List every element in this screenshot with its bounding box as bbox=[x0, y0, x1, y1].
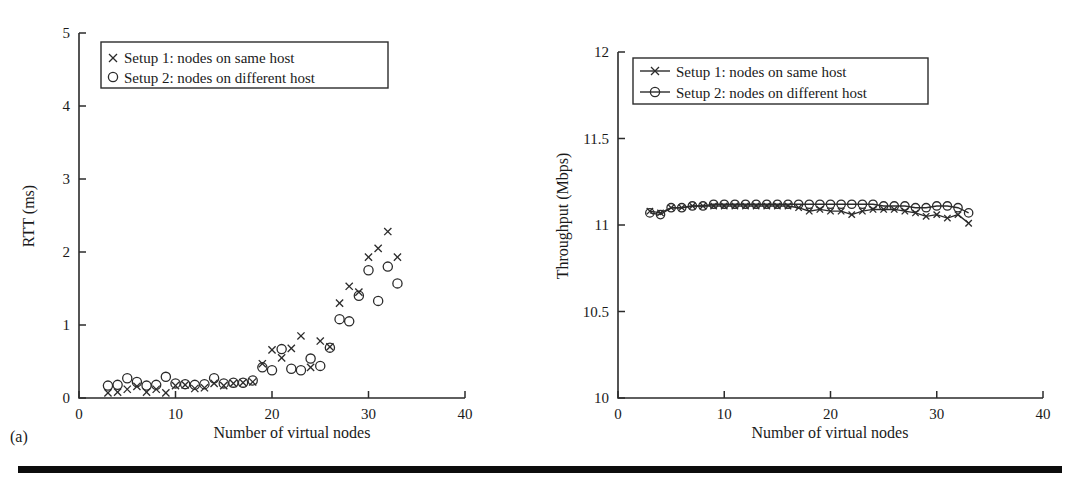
rtt-chart-svg: 010203040 012345 Number of virtual nodes… bbox=[0, 0, 540, 482]
x-tick-label: 0 bbox=[75, 406, 83, 422]
marker-circle bbox=[393, 279, 402, 288]
x-tick-label: 30 bbox=[929, 406, 944, 422]
marker-x bbox=[965, 220, 971, 226]
y-tick-label: 0 bbox=[63, 390, 71, 406]
x-tick-label: 0 bbox=[614, 406, 622, 422]
x-tick-label: 40 bbox=[458, 406, 473, 422]
throughput-y-axis-title: Throughput (Mbps) bbox=[554, 153, 572, 280]
series-polyline bbox=[650, 204, 969, 214]
x-tick-label: 30 bbox=[361, 406, 376, 422]
marker-circle bbox=[142, 381, 151, 390]
y-tick-label: 5 bbox=[63, 25, 71, 41]
rtt-legend: Setup 1: nodes on same host Setup 2: nod… bbox=[101, 42, 388, 88]
chart-panel-throughput: 010203040 1010.51111.512 Number of virtu… bbox=[540, 0, 1080, 482]
y-tick-label: 11.5 bbox=[583, 131, 609, 147]
marker-circle bbox=[248, 376, 257, 385]
marker-circle bbox=[132, 377, 141, 386]
series-setup1 bbox=[104, 228, 401, 397]
y-tick-label: 2 bbox=[63, 244, 71, 260]
marker-x bbox=[239, 379, 246, 386]
marker-x bbox=[124, 386, 131, 393]
y-tick-label: 11 bbox=[595, 217, 609, 233]
marker-x bbox=[394, 254, 401, 261]
rtt-y-tick-labels: 012345 bbox=[63, 25, 71, 406]
figure-bottom-rule bbox=[18, 466, 1062, 473]
y-tick-label: 3 bbox=[63, 171, 71, 187]
marker-circle bbox=[123, 374, 132, 383]
throughput-legend-label-setup2: Setup 2: nodes on different host bbox=[676, 85, 868, 101]
marker-circle bbox=[267, 366, 276, 375]
throughput-data-series bbox=[646, 200, 973, 226]
throughput-legend-label-setup1: Setup 1: nodes on same host bbox=[676, 64, 847, 80]
series-setup2 bbox=[103, 262, 402, 390]
marker-x bbox=[346, 283, 353, 290]
marker-circle bbox=[161, 372, 170, 381]
marker-circle bbox=[219, 379, 228, 388]
rtt-x-tick-labels: 010203040 bbox=[75, 406, 472, 422]
y-tick-label: 4 bbox=[63, 98, 71, 114]
marker-circle bbox=[306, 354, 315, 363]
rtt-legend-label-setup2: Setup 2: nodes on different host bbox=[124, 70, 316, 86]
marker-x bbox=[384, 228, 391, 235]
panel-a-tag: (a) bbox=[10, 428, 28, 446]
marker-x bbox=[268, 346, 275, 353]
marker-circle bbox=[152, 380, 161, 389]
marker-x bbox=[365, 254, 372, 261]
rtt-legend-label-setup1: Setup 1: nodes on same host bbox=[124, 50, 295, 66]
marker-circle bbox=[287, 364, 296, 373]
throughput-legend: Setup 1: nodes on same host Setup 2: nod… bbox=[633, 58, 928, 104]
marker-circle bbox=[374, 296, 383, 305]
figure-root: 010203040 012345 Number of virtual nodes… bbox=[0, 0, 1080, 482]
marker-circle bbox=[335, 315, 344, 324]
rtt-y-axis-title: RTT (ms) bbox=[20, 185, 38, 247]
marker-circle bbox=[345, 317, 354, 326]
marker-x bbox=[375, 245, 382, 252]
throughput-x-axis-title: Number of virtual nodes bbox=[752, 424, 909, 441]
marker-circle bbox=[383, 262, 392, 271]
marker-circle bbox=[364, 266, 373, 275]
chart-panel-rtt: 010203040 012345 Number of virtual nodes… bbox=[0, 0, 540, 482]
throughput-y-tick-labels: 1010.51111.512 bbox=[583, 44, 609, 406]
rtt-x-axis-title: Number of virtual nodes bbox=[214, 424, 371, 441]
marker-circle bbox=[103, 381, 112, 390]
marker-x bbox=[317, 337, 324, 344]
marker-circle bbox=[171, 379, 180, 388]
marker-circle bbox=[316, 361, 325, 370]
marker-circle bbox=[113, 380, 122, 389]
marker-x bbox=[336, 300, 343, 307]
y-tick-label: 10.5 bbox=[583, 304, 609, 320]
marker-x bbox=[278, 354, 285, 361]
y-tick-label: 1 bbox=[63, 317, 71, 333]
x-tick-label: 10 bbox=[717, 406, 732, 422]
rtt-data-points bbox=[103, 228, 402, 397]
x-tick-label: 20 bbox=[823, 406, 838, 422]
marker-circle bbox=[277, 344, 286, 353]
marker-x bbox=[307, 364, 314, 371]
y-tick-label: 12 bbox=[594, 44, 609, 60]
marker-circle bbox=[296, 366, 305, 375]
y-tick-label: 10 bbox=[594, 390, 609, 406]
x-tick-label: 40 bbox=[1036, 406, 1051, 422]
throughput-x-tick-labels: 010203040 bbox=[614, 406, 1050, 422]
marker-x bbox=[162, 389, 169, 396]
x-tick-label: 10 bbox=[168, 406, 183, 422]
marker-circle bbox=[210, 374, 219, 383]
marker-x bbox=[297, 332, 304, 339]
marker-x bbox=[288, 345, 295, 352]
throughput-chart-svg: 010203040 1010.51111.512 Number of virtu… bbox=[540, 0, 1080, 482]
x-tick-label: 20 bbox=[265, 406, 280, 422]
